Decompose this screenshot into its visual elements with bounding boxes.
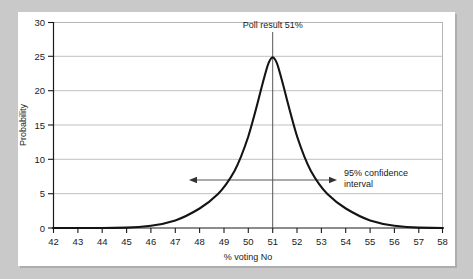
x-tick-label: 56 — [389, 236, 400, 247]
x-axis-tick-labels: 42 43 44 45 46 47 48 49 50 51 52 53 54 5… — [48, 236, 448, 247]
y-tick-label: 20 — [34, 85, 45, 96]
x-tick-label: 44 — [97, 236, 108, 247]
figure-root: 0 5 10 15 20 25 30 Probability — [0, 0, 473, 279]
confidence-interval-label-line2: interval — [344, 179, 373, 189]
y-axis-title: Probability — [18, 103, 28, 146]
x-tick-label: 58 — [437, 236, 448, 247]
poll-result-label: Poll result 51% — [243, 20, 303, 30]
y-axis-tick-labels: 0 5 10 15 20 25 30 — [34, 17, 45, 234]
x-tick-label: 57 — [414, 236, 425, 247]
x-tick-label: 55 — [365, 236, 376, 247]
y-tick-label: 25 — [34, 51, 45, 62]
x-tick-label: 53 — [316, 236, 327, 247]
x-tick-label: 52 — [292, 236, 303, 247]
x-tick-label: 42 — [48, 236, 59, 247]
normal-distribution-curve — [53, 57, 443, 228]
x-tick-label: 48 — [194, 236, 205, 247]
x-tick-label: 43 — [73, 236, 84, 247]
x-tick-label: 45 — [121, 236, 132, 247]
x-tick-label: 47 — [170, 236, 181, 247]
y-tick-label: 15 — [34, 120, 45, 131]
x-tick-label: 50 — [243, 236, 254, 247]
y-axis-ticks — [48, 23, 53, 229]
y-tick-label: 10 — [34, 154, 45, 165]
confidence-interval-label-line1: 95% confidence — [344, 168, 408, 178]
x-tick-label: 54 — [340, 236, 351, 247]
y-tick-label: 30 — [34, 17, 45, 28]
y-tick-label: 0 — [40, 223, 45, 234]
y-tick-label: 5 — [40, 188, 45, 199]
probability-distribution-chart: 0 5 10 15 20 25 30 Probability — [0, 0, 473, 279]
x-axis-title: % voting No — [224, 252, 273, 262]
x-tick-label: 46 — [146, 236, 157, 247]
x-tick-label: 49 — [219, 236, 230, 247]
x-tick-label: 51 — [267, 236, 278, 247]
